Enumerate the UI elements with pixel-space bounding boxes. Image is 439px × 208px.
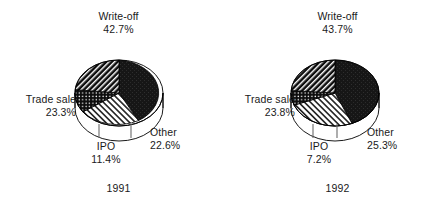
label-trade-sale-1992: Trade sale 23.8%: [215, 93, 295, 118]
label-other-pct: 22.6%: [150, 139, 218, 152]
label-other-name: Other: [367, 126, 435, 139]
label-other-1991: Other 22.6%: [150, 126, 218, 151]
year-value: 1991: [106, 182, 130, 194]
pie-chart-1992: Write-off 43.7% Trade sale 23.8% IPO 7.2…: [219, 0, 438, 208]
pie-chart-1991: Write-off 42.7% Trade sale 23.3% IPO 11.…: [0, 0, 219, 208]
chart-title-1991: 1991: [0, 182, 219, 194]
pie-slices-1991: [75, 60, 163, 126]
label-other-name: Other: [150, 126, 218, 139]
label-trade-sale-pct: 23.3%: [0, 106, 76, 119]
label-ipo-name: IPO: [285, 140, 353, 153]
pie-slices-1992: [291, 60, 379, 126]
label-trade-sale-name: Trade sale: [0, 93, 76, 106]
label-other-pct: 25.3%: [367, 139, 435, 152]
label-ipo-name: IPO: [72, 140, 140, 153]
label-ipo-pct: 7.2%: [285, 153, 353, 166]
label-writeoff-1992: Write-off 43.7%: [219, 10, 438, 35]
label-writeoff-pct: 42.7%: [18, 23, 219, 36]
label-trade-sale-1991: Trade sale 23.3%: [0, 93, 76, 118]
label-ipo-1991: IPO 11.4%: [72, 140, 140, 165]
label-writeoff-name: Write-off: [237, 10, 438, 23]
year-value: 1992: [325, 182, 349, 194]
label-writeoff-1991: Write-off 42.7%: [0, 10, 219, 35]
label-ipo-pct: 11.4%: [72, 153, 140, 166]
label-ipo-1992: IPO 7.2%: [285, 140, 353, 165]
label-writeoff-name: Write-off: [18, 10, 219, 23]
slice-trade-sale: [291, 60, 335, 93]
chart-title-1992: 1992: [219, 182, 438, 194]
label-writeoff-pct: 43.7%: [237, 23, 438, 36]
label-trade-sale-pct: 23.8%: [215, 106, 295, 119]
label-other-1992: Other 25.3%: [367, 126, 435, 151]
label-trade-sale-name: Trade sale: [215, 93, 295, 106]
slice-trade-sale: [75, 60, 119, 93]
